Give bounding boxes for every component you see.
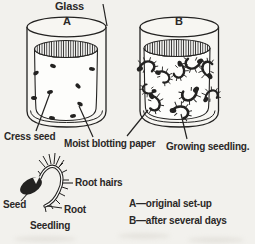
root-label-line (47, 206, 62, 208)
glass-label: Glass (55, 1, 84, 12)
scan-smudge (118, 233, 170, 239)
legend-b: B—after several days (129, 216, 227, 226)
scan-smudge (188, 237, 244, 243)
seed-label: Seed (3, 200, 26, 210)
moist-paper-leader-line-b (127, 110, 148, 136)
seedling-label: Seedling (30, 221, 70, 231)
scan-smudge (14, 236, 76, 242)
growing-seedling-label: Growing seedling. (166, 142, 249, 152)
root-label: Root (64, 205, 86, 215)
germination-diagram (0, 0, 255, 244)
cress-seed-label: Cress seed (4, 132, 55, 142)
blotting-paper-a-roll-top (35, 41, 98, 58)
beaker-a (27, 17, 106, 127)
vessel-a-label: A (63, 16, 71, 27)
diagram-canvas: Glass A B Cress seed Moist blotting pape… (0, 0, 255, 244)
legend-a: A—original set-up (129, 199, 212, 209)
root-hairs-label: Root hairs (75, 178, 122, 188)
glass-leader-line (103, 4, 107, 26)
vessel-b-label: B (175, 16, 183, 27)
blotting-paper-b-roll-top (144, 40, 210, 57)
moist-blotting-paper-label: Moist blotting paper (64, 139, 156, 149)
